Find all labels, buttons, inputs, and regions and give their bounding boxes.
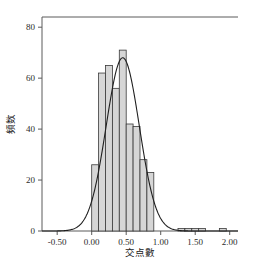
- x-tick-label: 0.00: [84, 237, 100, 247]
- chart-canvas: 020406080 -0.500.000.501.001.502.00 交点數 …: [0, 0, 253, 272]
- y-axis-label: 頻数: [5, 114, 16, 134]
- histogram-bar: [126, 124, 133, 231]
- histogram-bar: [112, 88, 119, 231]
- histogram-chart: 020406080 -0.500.000.501.001.502.00 交点數 …: [0, 0, 253, 272]
- histogram-bar: [105, 65, 112, 231]
- x-tick-label: 1.50: [187, 237, 203, 247]
- histogram-bar: [119, 50, 126, 231]
- y-tick-label: 40: [26, 124, 36, 134]
- x-axis-label: 交点數: [125, 247, 155, 258]
- x-tick-label: 1.00: [153, 237, 169, 247]
- histogram-bar: [133, 127, 140, 231]
- x-tick-label: -0.50: [48, 237, 67, 247]
- y-tick-label: 60: [26, 73, 36, 83]
- histogram-bar: [140, 160, 147, 231]
- x-tick-label: 0.50: [118, 237, 134, 247]
- histogram-bar: [147, 172, 154, 231]
- x-tick-label: 2.00: [222, 237, 238, 247]
- y-tick-label: 20: [26, 175, 36, 185]
- y-tick-label: 0: [31, 226, 36, 236]
- y-tick-label: 80: [26, 22, 36, 32]
